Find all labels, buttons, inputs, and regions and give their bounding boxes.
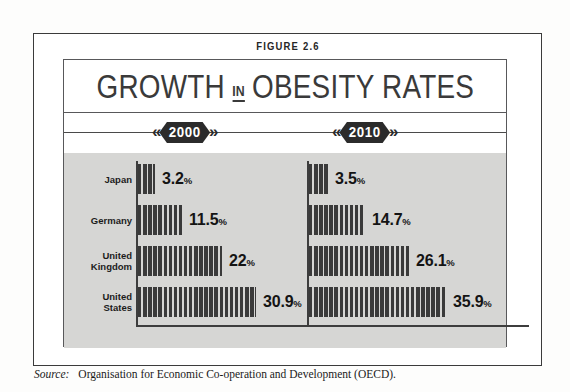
source-text: Organisation for Economic Co-operation a… (78, 368, 396, 380)
category-label-line1: United (102, 291, 132, 302)
bar-group: 3.2% (138, 164, 192, 194)
year-badge-2000-label: 2000 (160, 122, 211, 143)
bar-group: 26.1% (309, 246, 455, 276)
bar-row: 3.5% (301, 164, 501, 194)
year-rule-line (64, 132, 506, 133)
panel-2000: Japan 3.2% Germany 11.5% (70, 153, 288, 348)
chart-title-part1: GROWTH (96, 67, 224, 106)
bar-row: Germany 11.5% (70, 205, 288, 235)
bar-group: 22% (138, 246, 255, 276)
bar-united-states-2010 (309, 287, 446, 317)
chevron-right-icon: » (389, 123, 398, 140)
bar-row: 35.9% (301, 287, 501, 317)
bar-united-kingdom-2010 (309, 246, 409, 276)
percent-sign: % (446, 257, 454, 268)
bar-germany-2010 (309, 205, 365, 235)
panel-2010: 3.5% 14.7% 26.1% (301, 153, 501, 348)
bar-value: 3.5% (335, 170, 365, 188)
bar-row: 14.7% (301, 205, 501, 235)
category-label-line1: United (102, 250, 132, 261)
bar-united-kingdom-2000 (138, 246, 222, 276)
year-header-row: « 2000 » « 2010 » (64, 112, 506, 154)
year-badge-2000: « 2000 » (152, 121, 218, 144)
bar-value: 11.5% (189, 211, 227, 229)
bar-united-states-2000 (138, 287, 256, 317)
chart-title-connector: IN (232, 82, 244, 102)
chart-title-band: GROWTHINOBESITY RATES (64, 60, 506, 112)
chevron-left-icon: « (332, 123, 341, 140)
bar-group: 3.5% (309, 164, 365, 194)
chart-title: GROWTHINOBESITY RATES (96, 67, 474, 106)
category-label: United Kingdom (70, 250, 132, 272)
axis-horizontal (307, 325, 529, 327)
chevron-left-icon: « (152, 123, 161, 140)
year-badge-2010-label: 2010 (340, 122, 391, 143)
bar-value: 14.7% (372, 211, 411, 229)
category-label: United States (70, 291, 132, 313)
chevron-right-icon: » (209, 123, 218, 140)
bar-row: 26.1% (301, 246, 501, 276)
percent-sign: % (218, 216, 226, 227)
figure-number: FIGURE 2.6 (256, 40, 320, 52)
percent-sign: % (483, 298, 491, 309)
source-note: Source: Organisation for Economic Co-ope… (34, 368, 534, 380)
bar-value: 3.2% (162, 170, 192, 188)
chart-title-part2: OBESITY RATES (252, 67, 474, 106)
category-label: Japan (70, 174, 132, 185)
figure-page: FIGURE 2.6 GROWTHINOBESITY RATES « 2000 … (0, 0, 570, 392)
bar-row: Japan 3.2% (70, 164, 288, 194)
year-badge-2010: « 2010 » (332, 121, 398, 144)
category-label-line2: Kingdom (91, 261, 132, 272)
bar-japan-2000 (138, 164, 155, 194)
percent-sign: % (357, 175, 365, 186)
percent-sign: % (246, 257, 254, 268)
bar-value: 35.9% (453, 293, 492, 311)
bar-germany-2000 (138, 205, 182, 235)
percent-sign: % (184, 175, 192, 186)
category-label-line1: Japan (105, 174, 132, 185)
bar-row: United Kingdom 22% (70, 246, 288, 276)
percent-sign: % (402, 216, 410, 227)
bar-value: 22% (229, 252, 255, 270)
bar-value: 26.1% (416, 252, 455, 270)
category-label-line1: Germany (91, 215, 132, 226)
figure-number-row: FIGURE 2.6 (34, 34, 541, 58)
bar-group: 11.5% (138, 205, 227, 235)
bar-group: 14.7% (309, 205, 411, 235)
bar-group: 30.9% (138, 287, 302, 317)
category-label-line2: States (103, 302, 132, 313)
source-label: Source: (34, 368, 69, 380)
category-label: Germany (70, 215, 132, 226)
chart-card: GROWTHINOBESITY RATES « 2000 » « 2010 » (63, 59, 507, 347)
bar-value: 30.9% (263, 293, 302, 311)
plot-area: Japan 3.2% Germany 11.5% (64, 153, 506, 348)
bar-group: 35.9% (309, 287, 492, 317)
bar-row: United States 30.9% (70, 287, 288, 317)
bar-japan-2010 (309, 164, 328, 194)
